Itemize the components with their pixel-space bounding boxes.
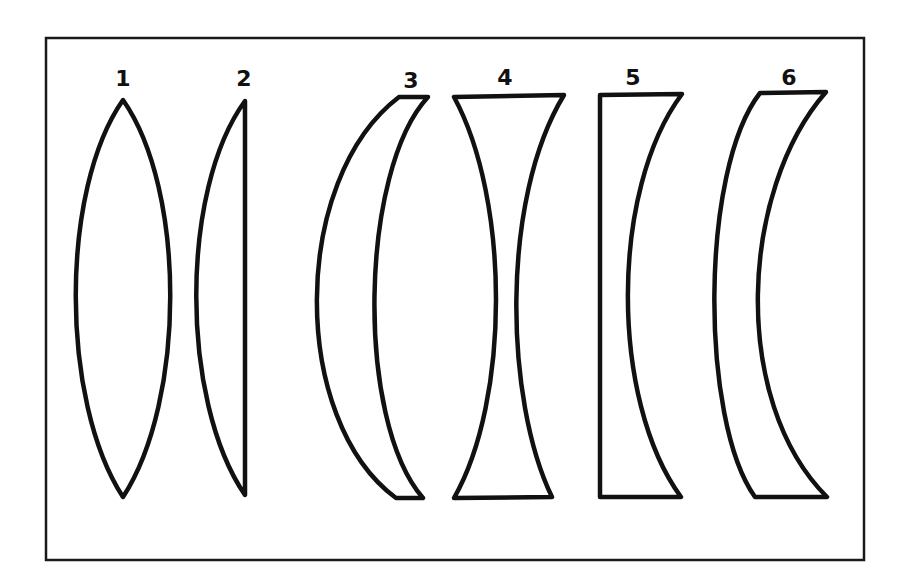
lens-1-label: 1 [115,66,130,91]
lens-2-plano-convex: 2 [196,66,251,495]
lens-6-label: 6 [781,65,796,90]
lens-diagram: 1 2 3 4 5 6 [0,0,906,587]
lens-6-negative-meniscus: 6 [714,65,827,497]
lens-4-label: 4 [497,65,512,90]
lens-5-plano-concave: 5 [600,65,682,497]
lens-5-label: 5 [625,65,640,90]
lens-1-biconvex: 1 [76,66,171,497]
lens-4-biconcave: 4 [454,65,564,498]
lens-3-label: 3 [403,68,418,93]
lens-2-label: 2 [236,66,251,91]
lens-3-positive-meniscus: 3 [317,68,428,498]
